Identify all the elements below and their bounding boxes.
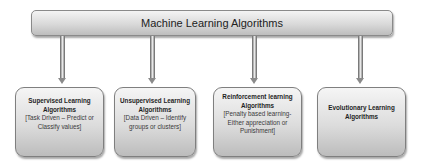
node-description: [Penalty based learning- Either apprecia…: [218, 110, 297, 136]
node-description: [Data Driven – Identify groups or cluste…: [119, 114, 191, 131]
node-reinforcement-learning: Reinforcement learning Algorithms [Penal…: [213, 87, 302, 157]
root-node-machine-learning-algorithms: Machine Learning Algorithms: [31, 10, 393, 36]
arrow-down-icon: [59, 36, 66, 86]
node-evolutionary-learning: Evolutionary Learning Algorithms: [317, 87, 406, 157]
node-description: [Task Driven – Predict or Classify value…: [20, 114, 99, 131]
node-supervised-learning: Supervised Learning Algorithms [Task Dri…: [15, 87, 104, 157]
node-title: Evolutionary Learning Algorithms: [322, 104, 401, 121]
arrow-down-icon: [357, 36, 364, 86]
arrow-down-icon: [251, 36, 258, 86]
node-title: Unsupervised Learning Algorithms: [119, 97, 191, 114]
node-unsupervised-learning: Unsupervised Learning Algorithms [Data D…: [114, 87, 196, 157]
root-node-label: Machine Learning Algorithms: [141, 17, 283, 29]
arrow-down-icon: [149, 36, 156, 86]
node-title: Supervised Learning Algorithms: [20, 97, 99, 114]
node-title: Reinforcement learning Algorithms: [218, 93, 297, 110]
